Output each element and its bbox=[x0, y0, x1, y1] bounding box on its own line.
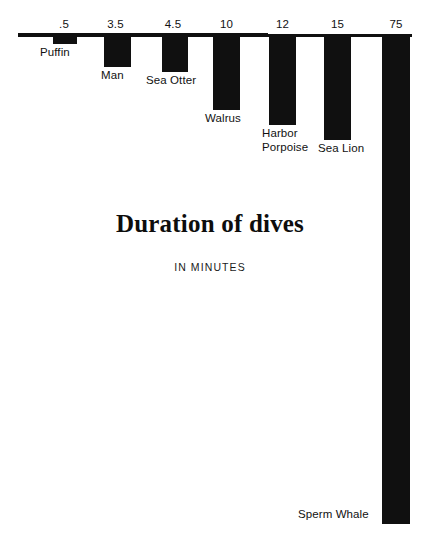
chart-title: Duration of dives bbox=[0, 210, 420, 238]
bar-walrus bbox=[213, 36, 240, 110]
bar-sea-otter bbox=[162, 36, 188, 72]
value-label-sperm-whale: 75 bbox=[372, 18, 420, 31]
value-label-puffin: .5 bbox=[42, 18, 86, 31]
value-label-man: 3.5 bbox=[92, 18, 139, 31]
chart-subtitle: IN MINUTES bbox=[0, 261, 420, 274]
bar-chart-figure: .5Puffin3.5Man4.5Sea Otter10Walrus12Harb… bbox=[0, 0, 447, 553]
bar-harbor-porpoise bbox=[269, 36, 296, 125]
bar-puffin bbox=[53, 36, 77, 44]
value-label-sea-otter: 4.5 bbox=[150, 18, 196, 31]
category-label-sea-lion: Sea Lion bbox=[318, 142, 364, 156]
category-label-sperm-whale: Sperm Whale bbox=[298, 508, 369, 522]
category-label-walrus: Walrus bbox=[205, 112, 241, 126]
category-label-sea-otter: Sea Otter bbox=[146, 74, 196, 88]
category-label-man: Man bbox=[101, 69, 124, 83]
value-label-sea-lion: 15 bbox=[314, 18, 361, 31]
bar-sperm-whale bbox=[382, 36, 410, 524]
value-label-walrus: 10 bbox=[203, 18, 250, 31]
bar-man bbox=[104, 36, 131, 67]
value-label-harbor-porpoise: 12 bbox=[259, 18, 306, 31]
bar-sea-lion bbox=[324, 36, 351, 140]
category-label-puffin: Puffin bbox=[40, 46, 70, 60]
category-label-harbor-porpoise: Harbor Porpoise bbox=[262, 127, 308, 154]
